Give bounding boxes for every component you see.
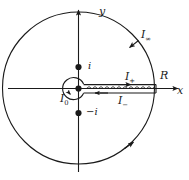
small-circle-label: I0 [60,93,69,107]
lower-cut-label-sub: − [122,101,128,109]
large-circle-label-sub: ∞ [145,35,151,43]
radius-label: R [160,70,168,81]
lower-cut-label: I− [118,95,128,109]
pole-i-dot [75,64,81,70]
large-circle-label: I∞ [141,29,151,43]
branch-point-origin-dot [75,85,81,91]
upper-cut-label: I+ [125,71,135,85]
y-axis-label: y [99,6,105,17]
pole-minus-i-label: −i [86,107,98,117]
contour-diagram-svg [0,0,189,180]
large-circle-arrow-upper [130,41,139,48]
upper-cut-label-sub: + [129,77,135,85]
figure-canvas: y x I∞ I+ I− I0 R i −i [0,0,189,180]
large-circle-arrow-lower [125,142,134,148]
pole-i-label: i [88,61,91,71]
small-circle-label-sub: 0 [64,99,68,107]
pole-minus-i-dot [75,110,81,116]
x-axis-label: x [177,85,183,96]
